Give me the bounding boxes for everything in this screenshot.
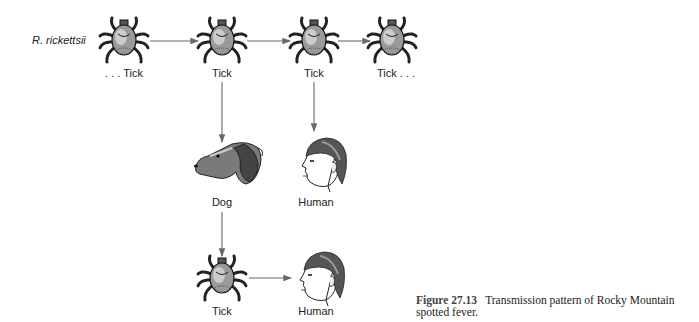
dog-head-icon	[194, 143, 263, 184]
tick-icon	[198, 18, 246, 62]
node-label-tick5: Tick	[212, 305, 232, 317]
figure-caption: Figure 27.13Transmission pattern of Rock…	[416, 294, 699, 318]
tick-icon	[290, 18, 338, 62]
tick-icon	[100, 18, 148, 62]
tick-icon	[198, 256, 246, 300]
human-head-icon	[300, 252, 345, 306]
node-label-dog: Dog	[212, 196, 232, 208]
node-label-tick3: Tick	[304, 67, 324, 79]
transmission-arrows	[0, 0, 699, 322]
node-label-human1: Human	[298, 196, 333, 208]
organism-label: R. rickettsii	[32, 34, 86, 46]
node-label-tick4: Tick . . .	[377, 67, 415, 79]
node-label-tick2: Tick	[212, 67, 232, 79]
node-label-human2: Human	[298, 305, 333, 317]
human-head-icon	[302, 138, 347, 192]
node-label-tick1: . . . Tick	[105, 67, 143, 79]
figure-number: Figure 27.13	[416, 294, 477, 306]
tick-icon	[368, 18, 416, 62]
